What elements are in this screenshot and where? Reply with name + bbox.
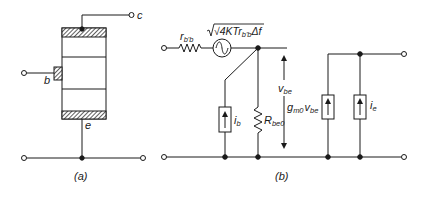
- collector-label: c: [137, 9, 143, 21]
- common-terminal-left-b: [162, 155, 167, 160]
- emitter-contact-hatched: [62, 111, 106, 119]
- collector-terminal: [129, 13, 134, 18]
- collector-junction-dot: [80, 27, 84, 31]
- input-terminal: [162, 46, 167, 51]
- base-label: b: [44, 74, 50, 86]
- rbb-label: rb'b: [180, 30, 193, 44]
- output-terminal: [402, 52, 407, 57]
- ib-label: ib: [234, 114, 241, 128]
- emitter-label: e: [85, 119, 91, 131]
- vbe-label: vbe: [278, 82, 292, 96]
- node-rbe0-bottom-dot: [256, 155, 261, 160]
- common-terminal-left-a: [22, 156, 27, 161]
- caption-b: (b): [275, 170, 289, 182]
- panel-a-transistor-structure: [22, 13, 146, 161]
- base-terminal: [22, 71, 27, 76]
- common-terminal-right-a: [141, 156, 146, 161]
- rbe0-label: Rbe0: [264, 114, 285, 128]
- output-top-wire: [328, 54, 402, 95]
- common-terminal-right-b: [402, 155, 407, 160]
- gm-vbe-label: gm0vbe: [287, 101, 318, 115]
- ie-label: ie: [370, 99, 377, 113]
- circuit-figure: c b e (a): [0, 0, 430, 199]
- emitter-junction-dot: [80, 156, 84, 160]
- noise-source-label: √4KTrb'bΔf: [207, 24, 264, 39]
- caption-a: (a): [74, 170, 88, 182]
- resistor-rbb-icon: [179, 44, 213, 52]
- transistor-body: [62, 28, 106, 119]
- base-contact-hatched: [54, 67, 62, 80]
- svg-text:√4KTrb'bΔf: √4KTrb'bΔf: [214, 25, 263, 39]
- ib-branch-wire: [225, 48, 258, 157]
- resistor-rbe0-icon: [254, 107, 262, 133]
- node-ib-bottom-dot: [223, 155, 228, 160]
- collector-lead: [82, 15, 129, 29]
